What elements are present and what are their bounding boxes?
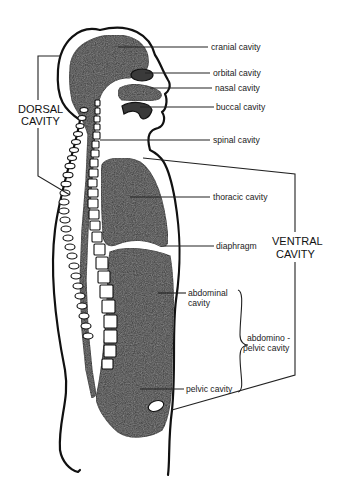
label-dorsal-1: DORSAL [18,103,63,115]
label-orbital-cavity: orbital cavity [213,68,261,78]
label-ventral-1: VENTRAL [272,235,323,247]
label-abdominal-cavity-1: abdominal [188,288,228,298]
label-nasal-cavity: nasal cavity [215,83,261,93]
label-cranial-cavity: cranial cavity [211,42,261,52]
thoracic-cavity [101,158,168,247]
buccal-cavity [122,103,152,119]
orbital-cavity [131,69,153,81]
label-abdominopelvic-1: abdomino - [247,333,290,343]
label-buccal-cavity: buccal cavity [216,102,266,112]
label-ventral-2: CAVITY [276,248,316,260]
label-thoracic-cavity: thoracic cavity [213,192,268,202]
nasal-cavity [118,85,161,101]
label-pelvic-cavity: pelvic cavity [186,384,233,394]
label-abdominal-cavity-2: cavity [188,298,211,308]
label-spinal-cavity: spinal cavity [213,135,261,145]
label-diaphragm: diaphragm [216,241,257,251]
body-cavities-diagram: cranial cavity orbital cavity nasal cavi… [0,0,341,489]
label-abdominopelvic-2: pelvic cavity [243,343,290,353]
label-dorsal-2: CAVITY [21,115,61,127]
